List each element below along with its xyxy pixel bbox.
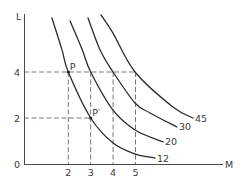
isoquant-chart: L M 0 234524 12203045 PP′ bbox=[0, 0, 241, 183]
chart-canvas: L M 0 234524 12203045 PP′ bbox=[0, 0, 241, 183]
x-tick-label: 2 bbox=[65, 167, 71, 178]
isoquant-12: 12 bbox=[52, 18, 169, 164]
y-tick-label: 2 bbox=[14, 113, 20, 124]
curve-line bbox=[101, 15, 193, 118]
x-axis-label: M bbox=[225, 159, 233, 170]
isoquant-20: 20 bbox=[70, 21, 177, 147]
axes: L M 0 bbox=[14, 11, 233, 170]
x-tick-label: 5 bbox=[132, 167, 138, 178]
isoquant-curves: 12203045 bbox=[52, 15, 207, 164]
point-annotations: PP′ bbox=[67, 61, 100, 120]
point-label: P bbox=[70, 61, 76, 72]
reference-lines bbox=[24, 72, 136, 164]
curve-line bbox=[52, 18, 155, 158]
x-tick-label: 3 bbox=[88, 167, 94, 178]
x-tick-label: 4 bbox=[110, 167, 116, 178]
isoquant-30: 30 bbox=[88, 18, 191, 133]
origin-label: 0 bbox=[14, 159, 20, 170]
curve-label: 20 bbox=[165, 136, 177, 147]
y-axis-label: L bbox=[16, 11, 22, 22]
isoquant-45: 45 bbox=[101, 15, 207, 124]
point-label: P′ bbox=[92, 107, 100, 118]
curve-label: 45 bbox=[195, 113, 207, 124]
curve-line bbox=[88, 18, 177, 127]
y-tick-label: 4 bbox=[14, 67, 20, 78]
curve-label: 12 bbox=[157, 153, 169, 164]
curve-label: 30 bbox=[179, 121, 191, 132]
